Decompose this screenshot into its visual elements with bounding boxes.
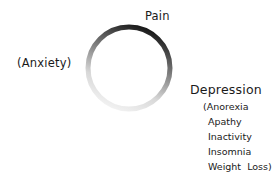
label-anxiety: (Anxiety) [17, 56, 71, 70]
label-depression: Depression [190, 82, 262, 97]
cycle-ring [85, 24, 173, 112]
symptom-apathy: Apathy [208, 116, 242, 127]
symptom-inactivity: Inactivity [208, 131, 252, 142]
symptom-weight-loss: Weight Loss) [208, 161, 272, 172]
label-pain: Pain [145, 9, 170, 23]
symptom-insomnia: Insomnia [208, 146, 251, 157]
symptom-anorexia: (Anorexia [203, 101, 249, 112]
